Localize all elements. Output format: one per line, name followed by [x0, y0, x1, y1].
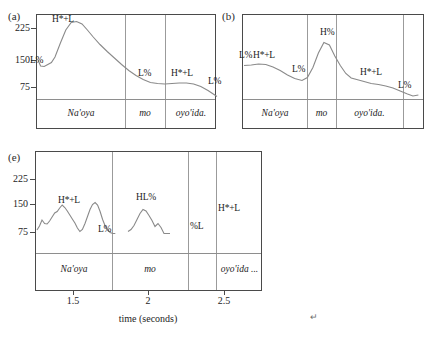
panel-a-ytick-225: 225 [8, 22, 30, 33]
panel-e-word-2: oyo'ida ... [216, 264, 263, 274]
panel-b: (b) Na'oya mo oyo'ida. L% H*+L L% H% H*+… [220, 0, 434, 140]
panel-b-annotation-0: L% [239, 50, 252, 60]
panel-b-annotation-4: H*+L [360, 67, 382, 77]
panel-e-annotation-1: L% [98, 224, 111, 234]
panel-b-annotation-5: L% [398, 80, 411, 90]
panel-e-plot-area: Na'oya mo oyo'ida ... [35, 151, 262, 291]
panel-e-annotation-4: H*+L [218, 203, 240, 213]
panel-b-annotation-3: H% [320, 27, 334, 37]
panel-e-ytick-75: 75 [6, 226, 28, 237]
panel-a-annotation-3: H*+L [171, 68, 193, 78]
panel-a-ytick-150: 150 [8, 54, 30, 65]
panel-e-tag: (e) [8, 151, 20, 163]
panel-e-ytick-225: 225 [6, 173, 28, 184]
panel-b-tag: (b) [222, 10, 235, 22]
panel-e: (e) 225 150 75 Na'oya mo oyo'ida ... 1.5… [0, 145, 290, 338]
panel-e-xaxis-title: time (seconds) [88, 313, 208, 324]
panel-b-annotation-2: L% [292, 64, 305, 74]
panel-a-word-2: oyo'ida. [165, 108, 217, 118]
panel-e-word-0: Na'oya [36, 264, 112, 274]
panel-e-word-1: mo [112, 264, 188, 274]
panel-b-word-2: oyo'ida. [336, 108, 403, 118]
panel-e-ytick-150: 150 [6, 198, 28, 209]
panel-a-word-0: Na'oya [37, 108, 125, 118]
panel-e-annotation-2: HL% [136, 192, 156, 202]
panel-e-xtick-2.5: 2.5 [209, 295, 239, 306]
panel-a: (a) 225 150 75 Na'oya mo oyo'ida. L% H*+… [0, 0, 220, 140]
panel-e-annotation-3: %L [190, 221, 203, 231]
panel-a-annotation-1: H*+L [52, 14, 74, 24]
panel-b-word-1: mo [307, 108, 336, 118]
panel-b-word-0: Na'oya [243, 108, 307, 118]
panel-a-word-1: mo [125, 108, 165, 118]
panel-a-annotation-0: L% [30, 55, 43, 65]
panel-a-tag: (a) [8, 10, 20, 22]
panel-e-xtick-1.5: 1.5 [58, 295, 88, 306]
figure-pitch-contours: (a) 225 150 75 Na'oya mo oyo'ida. L% H*+… [0, 0, 434, 338]
panel-e-xtick-2: 2 [133, 295, 163, 306]
stray-pilcrow-mark: ↵ [310, 312, 318, 322]
panel-a-annotation-2: L% [138, 68, 151, 78]
panel-a-ytick-75: 75 [8, 81, 30, 92]
panel-b-annotation-1: H*+L [253, 50, 275, 60]
panel-e-annotation-0: H*+L [58, 195, 80, 205]
